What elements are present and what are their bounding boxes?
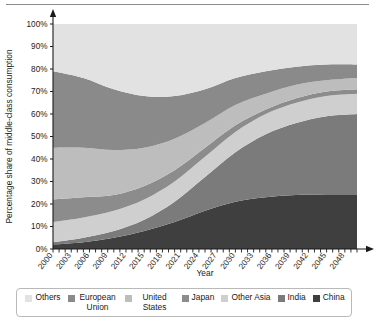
legend-swatch-icon (125, 295, 132, 302)
legend-swatch-icon (278, 295, 285, 302)
y-axis-title: Percentage share of middle-class consump… (4, 49, 14, 223)
legend-item-other-asia[interactable]: Other Asia (221, 293, 270, 303)
x-axis-title: Year (197, 268, 214, 278)
legend-item-japan[interactable]: Japan (182, 293, 215, 303)
legend-swatch-icon (25, 295, 32, 302)
legend-item-label: Japan (192, 293, 215, 303)
x-tick-label: 2042 (292, 251, 311, 271)
legend: OthersEuropean UnionUnited StatesJapanOt… (16, 288, 352, 317)
legend-item-label: United States (135, 293, 175, 312)
x-tick-label: 2003 (55, 251, 74, 271)
y-tick-label: 90% (31, 42, 47, 51)
y-axis-arrow-icon (50, 9, 56, 17)
area-bands-group (53, 24, 357, 249)
legend-item-india[interactable]: India (278, 293, 306, 303)
legend-item-united-states[interactable]: United States (125, 293, 175, 312)
x-tick-label: 2036 (255, 251, 274, 271)
y-tick-label: 40% (31, 155, 47, 164)
y-tick-label: 50% (31, 132, 47, 141)
y-tick-label: 80% (31, 65, 47, 74)
stacked-area-chart: 0%10%20%30%40%50%60%70%80%90%100% 200020… (0, 0, 375, 280)
y-tick-labels: 0%10%20%30%40%50%60%70%80%90%100% (27, 20, 53, 254)
y-tick-label: 70% (31, 87, 47, 96)
x-tick-label: 2015 (127, 251, 146, 271)
legend-swatch-icon (221, 295, 228, 302)
legend-swatch-icon (68, 295, 75, 302)
y-tick-label: 10% (31, 222, 47, 231)
legend-swatch-icon (182, 295, 189, 302)
y-tick-label: 60% (31, 110, 47, 119)
x-tick-label: 2009 (91, 251, 110, 271)
x-axis-arrow-icon (366, 246, 374, 252)
y-tick-label: 20% (31, 200, 47, 209)
legend-item-others[interactable]: Others (25, 293, 60, 303)
x-tick-label: 2033 (237, 251, 256, 271)
chart-page: 0%10%20%30%40%50%60%70%80%90%100% 200020… (0, 0, 375, 323)
y-tick-label: 30% (31, 177, 47, 186)
legend-item-china[interactable]: China (313, 293, 345, 303)
x-tick-label: 2012 (109, 251, 128, 271)
x-tick-label: 2021 (164, 251, 183, 271)
x-tick-label: 2006 (73, 251, 92, 271)
y-tick-label: 100% (27, 20, 48, 29)
legend-item-european-union[interactable]: European Union (68, 293, 118, 312)
legend-items: OthersEuropean UnionUnited StatesJapanOt… (17, 289, 353, 318)
legend-item-label: European Union (78, 293, 118, 312)
legend-swatch-icon (313, 295, 320, 302)
chart-container: 0%10%20%30%40%50%60%70%80%90%100% 200020… (0, 0, 375, 280)
legend-item-label: India (288, 293, 306, 303)
x-tick-label: 2039 (273, 251, 292, 271)
legend-item-label: Others (35, 293, 60, 303)
legend-item-label: Other Asia (231, 293, 270, 303)
x-tick-label: 2018 (146, 251, 165, 271)
legend-item-label: China (323, 293, 345, 303)
x-tick-label: 2030 (219, 251, 238, 271)
x-tick-label: 2045 (310, 251, 329, 271)
x-tick-label: 2048 (328, 251, 347, 271)
